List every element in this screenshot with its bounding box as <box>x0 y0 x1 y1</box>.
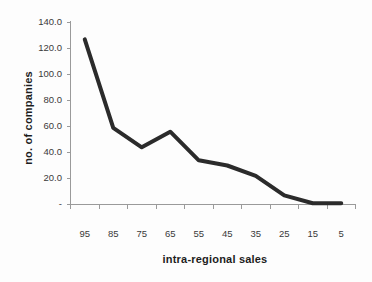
data-series-line <box>85 39 342 203</box>
plot-area <box>0 0 372 282</box>
chart-figure: no. of companies intra-regional sales 14… <box>0 0 372 282</box>
